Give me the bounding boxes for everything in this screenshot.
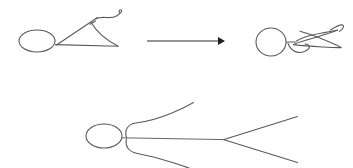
sketch-svg — [0, 0, 353, 168]
diagram-canvas: figure with triangular looped body trans… — [0, 0, 353, 168]
canvas-background — [0, 0, 353, 168]
